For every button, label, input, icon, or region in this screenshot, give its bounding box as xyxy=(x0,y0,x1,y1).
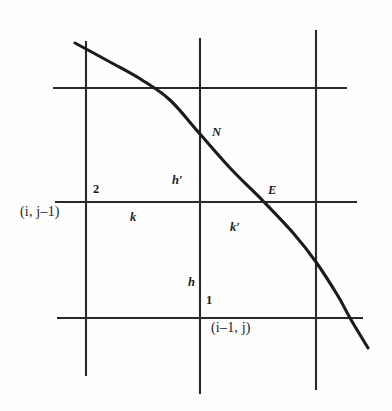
index-label-i-minus-1-j: (i–1, j) xyxy=(211,321,251,335)
point-label-n: N xyxy=(212,126,221,139)
node-label-2: 2 xyxy=(93,183,99,196)
point-label-e: E xyxy=(268,184,276,197)
node-label-1: 1 xyxy=(206,294,212,307)
index-label-i-j-minus-1: (i, j–1) xyxy=(20,205,60,219)
spacing-label-h: h xyxy=(188,276,195,289)
spacing-label-k: k xyxy=(130,211,136,224)
spacing-label-k-prime: k′ xyxy=(230,221,240,234)
diagram-canvas: 2 1 N E h′ h k k′ (i, j–1) (i–1, j) xyxy=(0,0,392,411)
spacing-label-h-prime: h′ xyxy=(172,174,182,187)
